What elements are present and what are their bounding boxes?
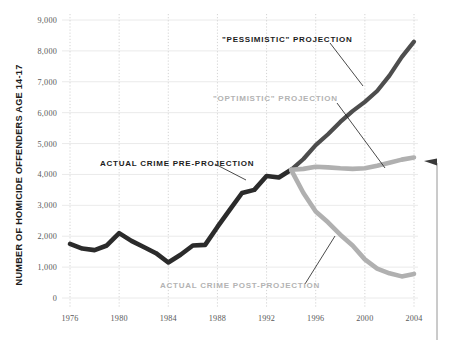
x-tick-label: 1992	[258, 314, 275, 323]
y-tick-label: 2,000	[38, 232, 57, 241]
x-tick-label: 1980	[111, 314, 128, 323]
annotation-actual-crime-post-projection: ACTUAL CRIME POST-PROJECTION	[160, 281, 320, 290]
y-tick-label: 5,000	[38, 140, 57, 149]
x-tick-label: 1984	[160, 314, 177, 323]
y-tick-label: 8,000	[38, 47, 57, 56]
y-tick-label: 6,000	[38, 109, 57, 118]
y-tick-label: 0	[53, 294, 57, 303]
x-tick-label: 2004	[405, 314, 422, 323]
y-tick-label: 7,000	[38, 78, 57, 87]
y-tick-label: 1,000	[38, 263, 57, 272]
y-tick-label: 3,000	[38, 201, 57, 210]
chart-container: 01,0002,0003,0004,0005,0006,0007,0008,00…	[0, 0, 459, 344]
annotation-actual-crime-pre-projection: ACTUAL CRIME PRE-PROJECTION	[100, 159, 254, 168]
y-axis-title: NUMBER OF HOMICIDE OFFENDERS AGE 14-17	[14, 64, 24, 285]
annotation-pessimistic-projection: "PESSIMISTIC" PROJECTION	[222, 35, 353, 44]
annotation-optimistic-projection: "OPTIMISTIC" PROJECTION	[213, 94, 338, 103]
x-tick-label: 1988	[209, 314, 226, 323]
x-tick-label: 2000	[356, 314, 373, 323]
chart-background	[0, 0, 459, 344]
y-tick-label: 4,000	[38, 170, 57, 179]
homicide-offenders-line-chart: 01,0002,0003,0004,0005,0006,0007,0008,00…	[0, 0, 459, 344]
x-tick-label: 1996	[307, 314, 324, 323]
x-tick-label: 1976	[61, 314, 78, 323]
y-tick-label: 9,000	[38, 16, 57, 25]
